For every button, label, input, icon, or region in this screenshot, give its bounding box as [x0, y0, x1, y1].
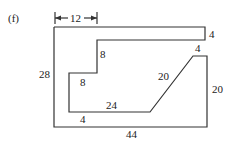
dim-bottom-width: 44	[126, 128, 138, 140]
dimension-arrow-12: 12	[55, 12, 97, 24]
dim-step-lower: 8	[80, 76, 86, 88]
dim-left-height: 28	[39, 68, 51, 80]
dim-top-width: 12	[70, 12, 81, 24]
dim-diagonal: 20	[158, 70, 170, 82]
dim-notch-top: 4	[195, 42, 201, 54]
figure-label: (f)	[8, 12, 19, 25]
shape-outline	[54, 27, 207, 127]
dim-step-upper: 8	[100, 48, 106, 60]
dim-inner-bottom: 24	[106, 99, 118, 111]
figure-diagram: (f) 12 4 4 8 8 20 20 28 24 4 44	[0, 0, 235, 145]
dim-top-strip: 4	[209, 28, 215, 40]
dim-bottom-strip: 4	[80, 113, 86, 125]
dim-right-height: 20	[212, 83, 224, 95]
